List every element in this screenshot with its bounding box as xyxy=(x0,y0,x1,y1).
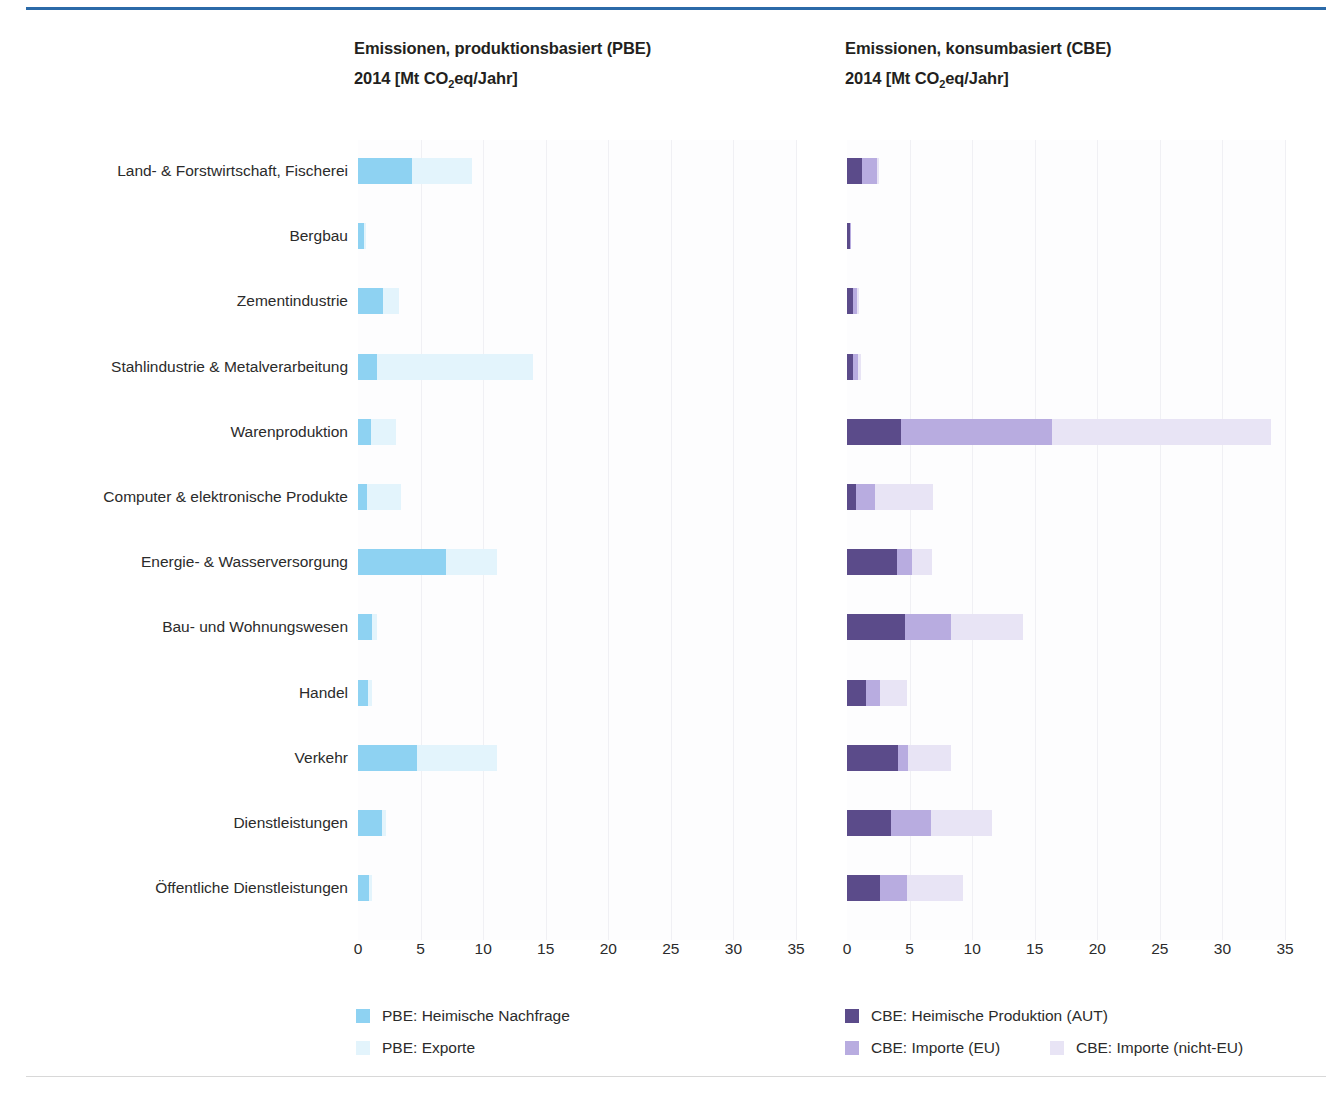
legend-swatch xyxy=(356,1009,370,1023)
legend-item: CBE: Importe (EU) xyxy=(845,1037,1000,1059)
left-title-unit-post: eq/Jahr] xyxy=(454,69,517,87)
x-axis-tick-label: 15 xyxy=(1026,940,1043,958)
bar-segment xyxy=(358,288,383,314)
legend-item: PBE: Heimische Nachfrage xyxy=(356,1005,570,1027)
gridline xyxy=(1285,140,1286,940)
gridline xyxy=(796,140,797,940)
legend-label: CBE: Importe (nicht-EU) xyxy=(1076,1037,1243,1059)
right-title-unit-pre: 2014 [Mt CO xyxy=(845,69,939,87)
bar-segment xyxy=(358,614,372,640)
x-axis-tick-label: 25 xyxy=(1151,940,1168,958)
bar-segment xyxy=(847,484,856,510)
bar-segment xyxy=(372,614,377,640)
bar-segment xyxy=(912,549,932,575)
right-panel-title: Emissionen, konsumbasiert (CBE) 2014 [Mt… xyxy=(845,33,1111,99)
category-label: Warenproduktion xyxy=(0,422,348,442)
bar-segment xyxy=(847,614,905,640)
bar-segment xyxy=(367,484,401,510)
legend-label: PBE: Heimische Nachfrage xyxy=(382,1005,570,1027)
bar-segment xyxy=(862,158,877,184)
bar-segment xyxy=(905,614,951,640)
legend-item: PBE: Exporte xyxy=(356,1037,475,1059)
bar-segment xyxy=(951,614,1024,640)
x-axis-tick-label: 5 xyxy=(905,940,914,958)
legend-label: CBE: Importe (EU) xyxy=(871,1037,1000,1059)
bar-segment xyxy=(857,288,859,314)
legend-label: CBE: Heimische Produktion (AUT) xyxy=(871,1005,1108,1027)
bar-segment xyxy=(875,484,934,510)
bars-pbe xyxy=(358,140,796,940)
bar-segment xyxy=(364,223,366,249)
bar-segment xyxy=(847,680,866,706)
bar-segment xyxy=(858,354,861,380)
bar-segment xyxy=(898,745,908,771)
right-title-line1: Emissionen, konsumbasiert (CBE) xyxy=(845,33,1111,63)
bar-segment xyxy=(847,810,891,836)
bar-segment xyxy=(358,875,369,901)
bar-segment xyxy=(847,745,898,771)
bar-segment xyxy=(377,354,533,380)
category-label: Öffentliche Dienstleistungen xyxy=(0,878,348,898)
bar-segment xyxy=(847,158,862,184)
left-panel-title: Emissionen, produktionsbasiert (PBE) 201… xyxy=(354,33,651,99)
x-axis-pbe: 05101520253035 xyxy=(358,940,796,970)
bar-segment xyxy=(847,875,880,901)
bar-segment xyxy=(358,158,412,184)
bar-segment xyxy=(358,419,371,445)
bar-segment xyxy=(446,549,497,575)
bar-segment xyxy=(897,549,912,575)
bar-segment xyxy=(1052,419,1271,445)
bar-segment xyxy=(908,745,951,771)
left-title-line1: Emissionen, produktionsbasiert (PBE) xyxy=(354,33,651,63)
bar-segment xyxy=(368,680,372,706)
bar-segment xyxy=(358,549,446,575)
left-title-line2: 2014 [Mt CO2eq/Jahr] xyxy=(354,63,651,99)
bar-segment xyxy=(847,549,897,575)
chart-figure: Emissionen, produktionsbasiert (PBE) 201… xyxy=(0,0,1342,1093)
legend-swatch xyxy=(356,1041,370,1055)
category-label: Handel xyxy=(0,683,348,703)
bar-segment xyxy=(382,810,386,836)
x-axis-tick-label: 20 xyxy=(600,940,617,958)
right-title-unit-post: eq/Jahr] xyxy=(945,69,1008,87)
x-axis-tick-label: 30 xyxy=(1214,940,1231,958)
bar-segment xyxy=(358,354,377,380)
bar-segment xyxy=(850,223,852,249)
x-axis-tick-label: 30 xyxy=(725,940,742,958)
x-axis-cbe: 05101520253035 xyxy=(847,940,1285,970)
bar-segment xyxy=(371,419,396,445)
bars-cbe xyxy=(847,140,1285,940)
category-axis-labels: Land- & Forstwirtschaft, FischereiBergba… xyxy=(0,140,348,940)
x-axis-tick-label: 35 xyxy=(1276,940,1293,958)
bar-segment xyxy=(891,810,931,836)
x-axis-tick-label: 15 xyxy=(537,940,554,958)
left-title-unit-pre: 2014 [Mt CO xyxy=(354,69,448,87)
bar-segment xyxy=(383,288,399,314)
bar-segment xyxy=(358,680,368,706)
x-axis-tick-label: 10 xyxy=(475,940,492,958)
category-label: Zementindustrie xyxy=(0,291,348,311)
x-axis-tick-label: 0 xyxy=(354,940,363,958)
legend-item: CBE: Heimische Produktion (AUT) xyxy=(845,1005,1108,1027)
bar-segment xyxy=(907,875,963,901)
x-axis-tick-label: 25 xyxy=(662,940,679,958)
top-rule xyxy=(26,7,1326,10)
x-axis-tick-label: 0 xyxy=(843,940,852,958)
legend-swatch xyxy=(1050,1041,1064,1055)
bar-segment xyxy=(877,158,879,184)
bar-segment xyxy=(847,419,901,445)
category-label: Computer & elektronische Produkte xyxy=(0,487,348,507)
category-label: Verkehr xyxy=(0,748,348,768)
legend-item: CBE: Importe (nicht-EU) xyxy=(1050,1037,1243,1059)
category-label: Bau- und Wohnungswesen xyxy=(0,617,348,637)
bar-segment xyxy=(931,810,992,836)
bar-segment xyxy=(880,680,908,706)
bar-segment xyxy=(866,680,880,706)
bar-segment xyxy=(358,810,382,836)
bar-segment xyxy=(412,158,472,184)
x-axis-tick-label: 10 xyxy=(964,940,981,958)
x-axis-tick-label: 35 xyxy=(787,940,804,958)
bar-segment xyxy=(856,484,875,510)
bar-segment xyxy=(358,484,367,510)
bar-segment xyxy=(901,419,1052,445)
